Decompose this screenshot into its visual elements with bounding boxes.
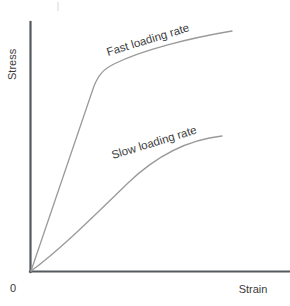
chart-canvas: Stress Strain 0 Fast loading rate Slow l… [0, 0, 290, 306]
slow-loading-rate-label: Slow loading rate [110, 124, 198, 161]
origin-label: 0 [10, 282, 16, 294]
fast-loading-rate-label: Fast loading rate [105, 21, 190, 58]
y-axis-label: Stress [6, 48, 18, 80]
x-axis-label: Strain [239, 283, 268, 295]
stress-strain-chart: Stress Strain 0 Fast loading rate Slow l… [0, 0, 290, 306]
